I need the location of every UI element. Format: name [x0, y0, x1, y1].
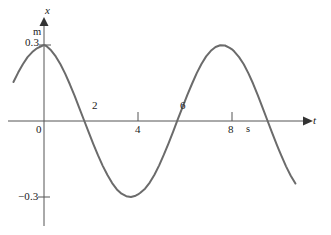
y-axis-label: x	[45, 5, 50, 16]
x-axis-label: t	[313, 115, 316, 126]
sinusoid-figure: x m 0.3 −0.3 0 2 4 6 8 s t	[0, 0, 331, 235]
y-tick-label-negative: −0.3	[18, 191, 38, 202]
x-tick-label-0: 0	[36, 124, 42, 135]
x-tick-label-6: 6	[180, 100, 186, 111]
x-tick-label-8: 8	[228, 124, 234, 135]
x-tick-label-4: 4	[135, 124, 141, 135]
y-tick-label-positive: 0.3	[25, 37, 39, 48]
x-tick-label-2: 2	[92, 100, 98, 111]
x-axis-unit-label: s	[246, 124, 250, 135]
y-axis-arrowhead	[40, 17, 49, 26]
x-axis-arrowhead	[303, 117, 313, 126]
plot-canvas	[0, 0, 331, 235]
